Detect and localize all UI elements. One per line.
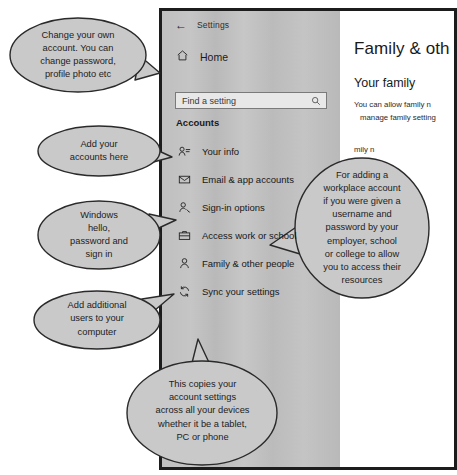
sidebar-item-your-info[interactable]: Your info: [162, 137, 340, 165]
page-title: Family & oth: [354, 39, 454, 59]
sidebar-item-sign-in-options-label: Sign-in options: [202, 202, 265, 213]
home-icon: [176, 48, 189, 66]
your-family-heading: Your family: [354, 76, 454, 90]
callout-change-own-account: Change your own account. You can change …: [8, 15, 148, 95]
nav-menu-list: Your info Email & app accounts: [162, 137, 340, 305]
sidebar-item-home-label: Home: [200, 51, 228, 63]
sidebar-item-email-app-accounts-label: Email & app accounts: [202, 174, 294, 185]
callout-add-your-accounts: Add your accounts here: [36, 124, 162, 178]
person-key-icon: [178, 201, 191, 214]
sidebar-item-access-work-or-school[interactable]: Access work or school: [162, 221, 340, 249]
sidebar-item-sign-in-options[interactable]: Sign-in options: [162, 193, 340, 221]
sidebar-item-access-work-or-school-label: Access work or school: [202, 230, 297, 241]
sidebar-item-home[interactable]: Home: [162, 48, 340, 66]
person-badge-icon: [178, 145, 191, 158]
search-input[interactable]: Find a setting: [175, 92, 327, 109]
back-arrow-icon[interactable]: ←: [175, 19, 187, 31]
briefcase-icon: [178, 229, 191, 242]
sidebar-item-email-app-accounts[interactable]: Email & app accounts: [162, 165, 340, 193]
callout-add-additional-users: Add additional users to your computer: [32, 288, 162, 350]
search-icon[interactable]: [311, 93, 326, 109]
search-input-value[interactable]: Find a setting: [176, 96, 311, 106]
sidebar-item-your-info-label: Your info: [202, 146, 239, 157]
callout-windows-hello: Windows hello, password and sign in: [36, 199, 162, 271]
family-description-line-1: You can allow family n: [354, 99, 454, 112]
window-title: Settings: [197, 20, 229, 30]
callout-sync-settings: This copies your account settings across…: [126, 355, 279, 467]
person-icon: [178, 257, 191, 270]
sync-icon: [178, 285, 191, 298]
envelope-icon: [178, 173, 191, 186]
sidebar-item-sync-your-settings-label: Sync your settings: [202, 286, 280, 297]
nav-section-header: Accounts: [176, 117, 219, 128]
sidebar-item-sync-your-settings[interactable]: Sync your settings: [162, 277, 340, 305]
titlebar: ← Settings: [162, 11, 340, 39]
sidebar-item-family-other-people-label: Family & other people: [202, 258, 294, 269]
family-text-fragment: mily n: [354, 145, 454, 154]
sidebar-item-family-other-people[interactable]: Family & other people: [162, 249, 340, 277]
family-description-line-2: manage family setting: [354, 112, 454, 125]
